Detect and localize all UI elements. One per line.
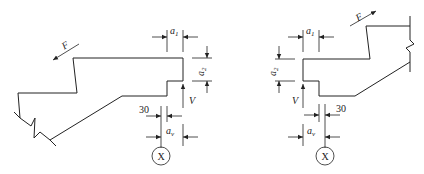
- offset-label: 30: [139, 104, 149, 115]
- right-corbel-lower-outline: [303, 62, 410, 96]
- load-label: V: [189, 95, 197, 106]
- section-marker-label: X: [157, 151, 165, 162]
- right-figure: F a1 a2 V 30 av X: [267, 10, 414, 165]
- a2-label: a2: [267, 67, 280, 76]
- offset-label: 30: [336, 103, 346, 114]
- a1-label: a1: [170, 25, 179, 38]
- section-marker-label: X: [321, 151, 329, 162]
- av-label: av: [166, 125, 175, 138]
- a1-label: a1: [306, 25, 315, 38]
- diagram-canvas: F a1 a2 V 30 av X: [0, 0, 424, 174]
- force-label: F: [353, 10, 365, 24]
- left-figure: F a1 a2 V 30 av X: [14, 25, 212, 165]
- load-label: V: [292, 95, 300, 106]
- left-corbel-lower-outline: [50, 81, 183, 140]
- a2-label: a2: [195, 67, 208, 76]
- av-label: av: [307, 125, 316, 138]
